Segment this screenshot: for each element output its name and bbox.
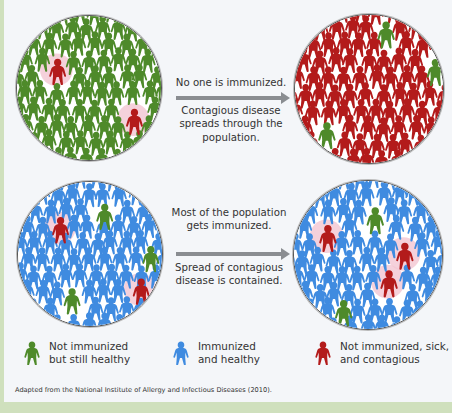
caption-no-immunization-bottom: Contagious disease spreads through the p… <box>162 104 300 144</box>
legend-item-sick-contagious: Not immunized, sick, and contagious <box>314 340 449 367</box>
population-circle-mass-immunization-before <box>17 181 163 327</box>
arrow-right-icon <box>176 252 282 256</box>
crowd-illustration <box>17 16 161 160</box>
legend-label-line1: Not immunized <box>49 340 130 353</box>
legend-label-line2: and healthy <box>198 353 260 366</box>
person-red-icon <box>314 341 332 365</box>
person-blue-icon <box>172 341 190 365</box>
bottom-frame-band <box>0 402 452 413</box>
legend-label-line2: but still healthy <box>49 353 130 366</box>
legend-label-line1: Immunized <box>198 340 260 353</box>
caption-mass-immunization-bottom: Spread of contagious disease is containe… <box>164 261 294 288</box>
legend-item-immunized-healthy: Immunized and healthy <box>172 340 260 367</box>
crowd-illustration <box>294 181 442 329</box>
source-citation: Adapted from the National Institute of A… <box>15 386 272 394</box>
crowd-illustration <box>295 15 443 163</box>
legend-label-line1: Not immunized, sick, <box>340 340 449 353</box>
population-circle-mass-immunization-after <box>293 180 443 330</box>
legend-label-line2: and contagious <box>340 353 449 366</box>
population-circle-no-immunization-before <box>16 15 162 161</box>
legend-item-not-immunized-healthy: Not immunized but still healthy <box>23 340 130 367</box>
arrow-right-icon <box>176 96 282 100</box>
crowd-illustration <box>18 182 162 326</box>
population-circle-no-immunization-after <box>294 14 444 164</box>
diagram-panel: No one is immunized. Contagious disease … <box>4 0 452 402</box>
caption-no-immunization-top: No one is immunized. <box>158 76 304 89</box>
caption-mass-immunization-top: Most of the population gets immunized. <box>170 206 288 233</box>
person-green-icon <box>23 341 41 365</box>
